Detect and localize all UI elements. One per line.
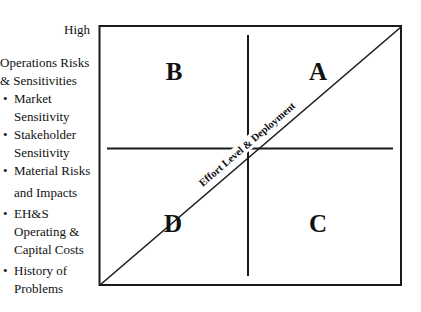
quadrant-c-label: C — [309, 210, 327, 237]
quadrant-d-label: D — [164, 210, 182, 237]
matrix-diagram: B A D C Effort Level & Deployment — [0, 0, 421, 312]
diagonal-line — [100, 27, 401, 285]
quadrant-a-label: A — [309, 58, 327, 85]
quadrant-b-label: B — [166, 58, 183, 85]
